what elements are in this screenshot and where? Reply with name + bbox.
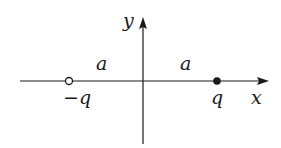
positive-charge-marker	[213, 77, 221, 85]
negative-charge-marker	[66, 78, 73, 85]
y-axis-label: y	[123, 11, 134, 30]
positive-charge-label: q	[211, 88, 223, 107]
x-axis-label: x	[251, 88, 262, 107]
distance-label-left: a	[96, 54, 107, 73]
distance-label-right: a	[180, 54, 191, 73]
negative-charge-label: −q	[63, 88, 91, 107]
axes-graphic	[0, 0, 281, 148]
